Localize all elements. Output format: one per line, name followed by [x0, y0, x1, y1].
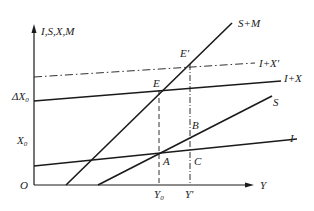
x-tick-y-prime: Y'	[185, 188, 194, 200]
x-axis-arrow-icon	[245, 183, 254, 188]
point-a: A	[162, 155, 170, 167]
y-tick-delta-x0-main: ΔX	[11, 90, 26, 102]
x-tick-y0: Y0	[154, 188, 164, 202]
label-i-plus-x: I+X	[283, 72, 303, 84]
point-e: E	[152, 77, 160, 89]
label-i-plus-x-prime: I+X'	[258, 57, 280, 69]
curve-s	[98, 96, 272, 185]
y-tick-x0-sub: 0	[24, 140, 28, 148]
economics-diagram: I,S,X,M Y O ΔX0 X0 Y0 Y' S+M I+X' I+X S …	[0, 0, 314, 211]
label-s-plus-m: S+M	[238, 17, 261, 29]
point-b: B	[192, 119, 199, 131]
curve-i-plus-x-prime	[34, 63, 255, 77]
origin-label: O	[20, 179, 28, 191]
x-tick-y0-sub: 0	[160, 194, 164, 202]
point-e-prime: E'	[179, 47, 190, 59]
label-i: I	[289, 132, 295, 144]
label-s: S	[273, 96, 279, 108]
point-c: C	[194, 155, 202, 167]
y-tick-delta-x0-sub: 0	[25, 96, 29, 104]
curve-s-plus-m	[66, 23, 232, 185]
y-tick-delta-x0: ΔX0	[11, 90, 29, 104]
y-axis-label: I,S,X,M	[40, 25, 75, 37]
x-axis-label: Y	[260, 179, 268, 191]
y-axis-arrow-icon	[32, 24, 37, 33]
y-tick-x0: X0	[16, 134, 28, 148]
axes	[34, 30, 246, 185]
